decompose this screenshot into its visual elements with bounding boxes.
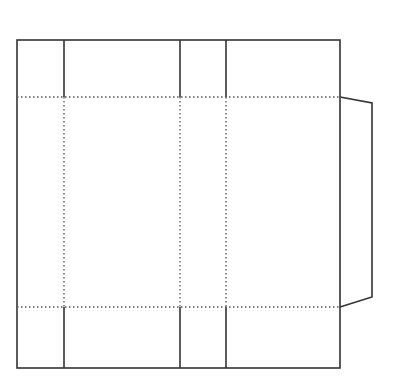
fold-lines	[17, 97, 340, 307]
box-net-diagram	[0, 0, 411, 389]
cut-lines	[17, 40, 372, 368]
outer-outline	[17, 40, 340, 368]
glue-flap	[340, 97, 372, 307]
